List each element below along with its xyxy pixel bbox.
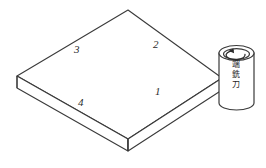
technical-drawing-figure: 1 2 3 4 端 銑 刀 — [0, 0, 266, 168]
edge-label-1: 1 — [155, 86, 161, 97]
edge-label-4: 4 — [78, 97, 84, 108]
cutter-caption-char-2: 銑 — [228, 70, 244, 81]
cutter-caption: 端 銑 刀 — [228, 60, 244, 90]
cutter-caption-char-1: 端 — [228, 60, 244, 71]
cutter-caption-char-3: 刀 — [228, 80, 244, 91]
block-top-face — [17, 10, 222, 139]
figure-svg-canvas — [0, 0, 266, 168]
edge-label-2: 2 — [153, 39, 159, 50]
edge-label-3: 3 — [74, 44, 80, 55]
